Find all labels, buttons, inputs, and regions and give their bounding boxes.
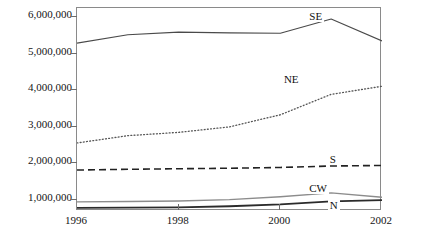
y-axis-tick-labels: 1,000,0002,000,0003,000,0004,000,0005,00… (4, 0, 72, 235)
y-tick-label: 6,000,000 (8, 8, 72, 20)
series-canvas (77, 8, 382, 211)
y-tick-label: 5,000,000 (8, 45, 72, 57)
y-tick-mark (71, 16, 77, 17)
x-tick-mark (279, 204, 280, 210)
y-tick-label: 4,000,000 (8, 81, 72, 93)
x-tick-label: 2000 (249, 214, 309, 226)
plot-area (76, 7, 381, 210)
series-label-s: S (328, 153, 338, 165)
y-tick-label: 2,000,000 (8, 154, 72, 166)
series-label-cw: CW (307, 182, 329, 194)
y-tick-mark (71, 89, 77, 90)
series-line-se (77, 19, 382, 43)
y-tick-mark (71, 126, 77, 127)
x-tick-label: 2002 (351, 214, 411, 226)
y-tick-mark (71, 53, 77, 54)
x-tick-label: 1998 (148, 214, 208, 226)
series-line-s (77, 165, 382, 170)
x-tick-label: 1996 (46, 214, 106, 226)
y-tick-mark (71, 199, 77, 200)
y-tick-label: 3,000,000 (8, 118, 72, 130)
chart-screenshot: 5th- to 8th-grade enrollment 1,000,0002,… (0, 0, 425, 235)
series-label-ne: NE (282, 73, 301, 85)
series-label-n: N (328, 199, 340, 211)
y-tick-label: 1,000,000 (8, 191, 72, 203)
y-tick-mark (71, 162, 77, 163)
x-tick-mark (178, 204, 179, 210)
series-line-ne (77, 86, 382, 143)
series-label-se: SE (307, 10, 324, 22)
